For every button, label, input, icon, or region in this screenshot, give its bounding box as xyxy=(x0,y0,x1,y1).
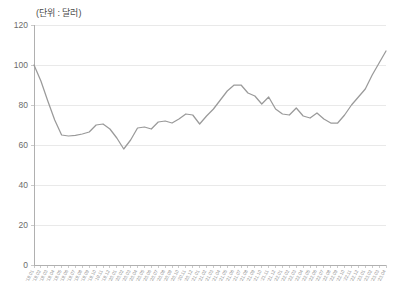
data-series-line xyxy=(34,51,386,149)
gridlines xyxy=(31,25,386,265)
y-tick-label: 0 xyxy=(23,260,28,270)
line-chart-plot: 020406080100120 '19.01'19.02'19.03'19.04… xyxy=(0,0,394,304)
chart-container: (단위 : 달러) 020406080100120 '19.01'19.02'1… xyxy=(0,0,394,304)
x-axis-tick-labels: '19.01'19.02'19.03'19.04'19.05'19.06'19.… xyxy=(25,269,387,283)
y-tick-label: 20 xyxy=(19,220,29,230)
y-tick-label: 80 xyxy=(19,100,29,110)
y-axis-tick-labels: 020406080100120 xyxy=(14,20,28,270)
y-tick-label: 120 xyxy=(14,20,28,30)
y-tick-label: 60 xyxy=(19,140,29,150)
y-tick-label: 100 xyxy=(14,60,28,70)
y-tick-label: 40 xyxy=(19,180,29,190)
